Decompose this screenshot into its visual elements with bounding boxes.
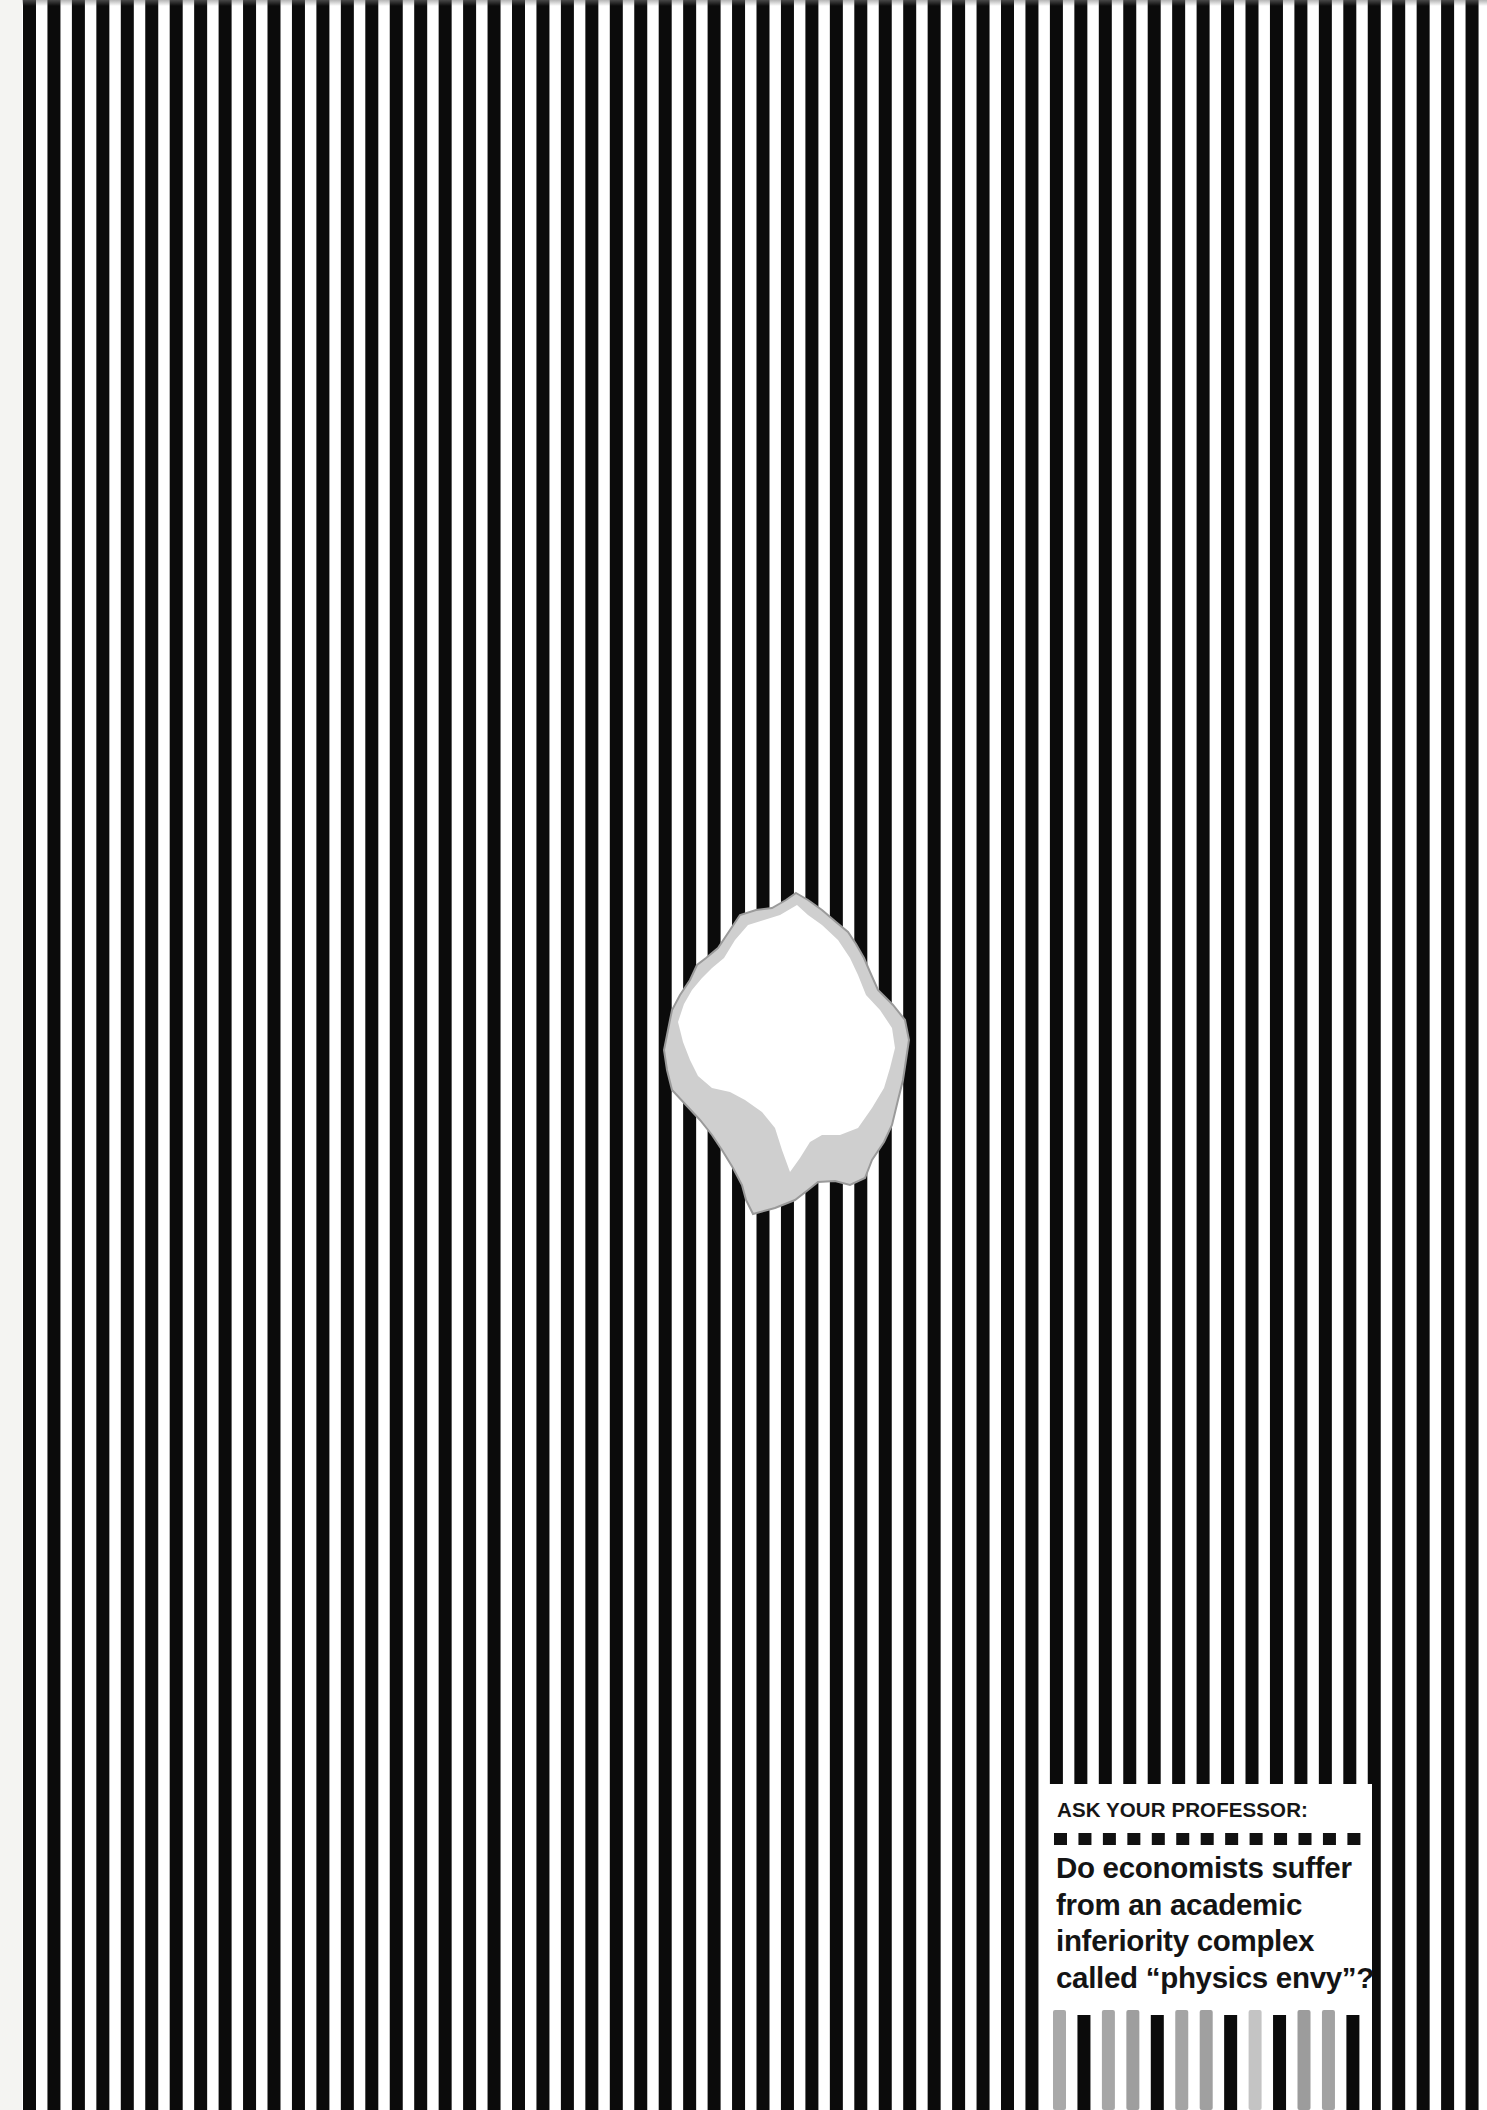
gray-barcode-bars <box>1045 1784 1372 2110</box>
torn-hole-icon <box>650 880 930 1230</box>
poster: ASK YOUR PROFESSOR: Do economists suffer… <box>0 0 1487 2110</box>
question-callout: ASK YOUR PROFESSOR: Do economists suffer… <box>1045 1784 1372 2110</box>
scan-edge-shadow <box>22 0 1487 6</box>
